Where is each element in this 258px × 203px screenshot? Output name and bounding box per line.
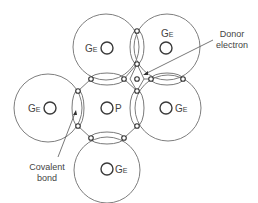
donor-electron: [135, 77, 140, 82]
donor-label-line1: Donor: [220, 29, 245, 39]
bond-p-right: [130, 90, 144, 126]
diagram-canvas: GE GE GE P GE GE Donor electron Covalent…: [0, 0, 258, 203]
electron: [135, 89, 140, 94]
label-ge-top-left: GE: [85, 43, 98, 54]
nuclei: [44, 42, 172, 175]
donor-label-line2: electron: [216, 40, 248, 50]
electron: [89, 77, 94, 82]
electron: [135, 124, 140, 129]
electron: [122, 77, 127, 82]
electron: [122, 136, 127, 141]
bond-tl-p: [90, 73, 124, 85]
covalent-label-line1: Covalent: [29, 162, 65, 172]
electron: [181, 77, 186, 82]
label-ge-bottom: GE: [115, 164, 128, 175]
label-ge-top-right: GE: [161, 28, 174, 39]
electron: [76, 89, 81, 94]
label-ge-left: GE: [28, 103, 41, 114]
label-p: P: [115, 103, 122, 114]
ge-left-nucleus: [44, 102, 56, 114]
bond-p-bottom: [90, 132, 124, 144]
lattice-diagram: GE GE GE P GE GE Donor electron Covalent…: [0, 0, 258, 203]
p-nucleus: [101, 102, 113, 114]
covalent-leader-line: [58, 113, 75, 157]
covalent-arrow-icon: [73, 110, 77, 115]
ge-right-nucleus: [160, 102, 172, 114]
ge-top-right-nucleus: [160, 42, 172, 54]
electron: [135, 29, 140, 34]
ge-top-left-nucleus: [101, 42, 113, 54]
electron: [149, 77, 154, 82]
electron: [76, 124, 81, 129]
electron: [89, 136, 94, 141]
electron: [135, 62, 140, 67]
ge-bottom-nucleus: [101, 163, 113, 175]
covalent-label-line2: bond: [37, 173, 57, 183]
label-ge-right: GE: [175, 103, 188, 114]
donor-leader-line: [145, 40, 213, 74]
